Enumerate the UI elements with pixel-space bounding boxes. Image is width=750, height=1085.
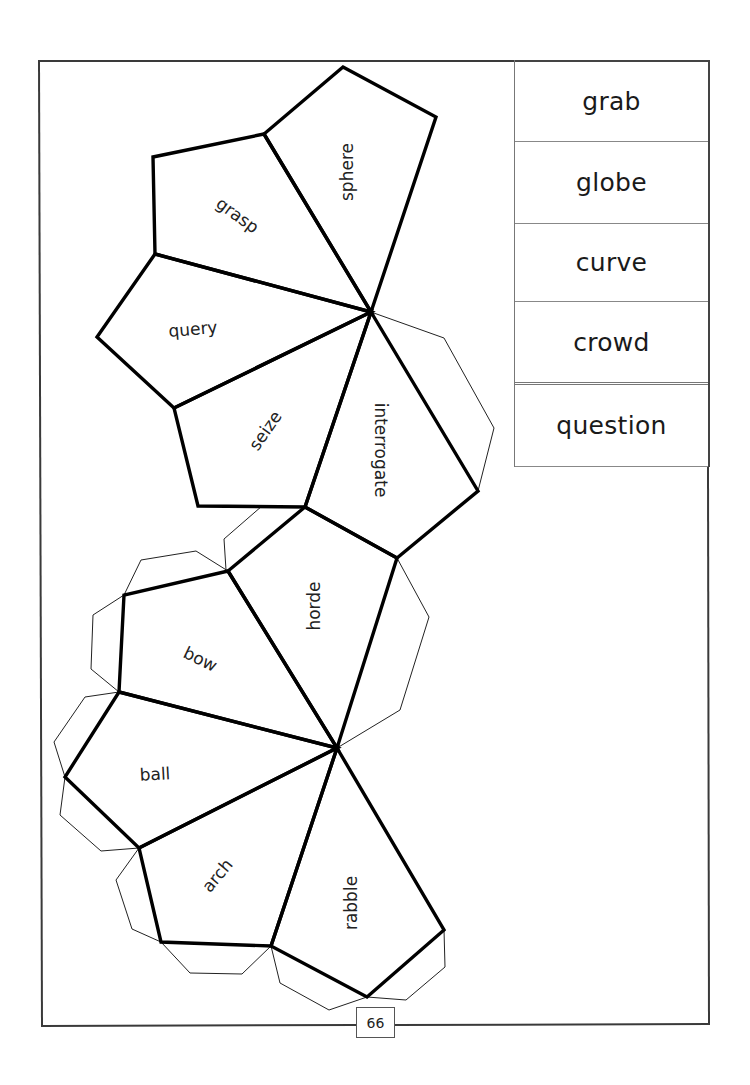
- word-list-item: question: [515, 385, 708, 467]
- word-list-table: grab globe curve crowd question: [514, 60, 710, 467]
- face-label-rabble: rabble: [341, 876, 361, 930]
- tab-rabble-bottom-left: [271, 946, 367, 1010]
- face-label-interrogate: interrogate: [371, 403, 391, 498]
- net-faces: [65, 67, 478, 997]
- word-list-item: curve: [515, 224, 708, 302]
- page-number: 66: [356, 1007, 395, 1038]
- tab-horde-right: [337, 558, 429, 748]
- face-label-arch: arch: [198, 855, 237, 896]
- face-label-query: query: [168, 317, 219, 341]
- face-rabble: [271, 748, 444, 997]
- tab-ball-bottom-left: [60, 777, 139, 851]
- word-list-item: globe: [515, 142, 708, 224]
- frame-right: [708, 467, 709, 1025]
- word-list-item: grab: [515, 60, 708, 142]
- face-label-horde: horde: [304, 581, 324, 630]
- face-label-bow: bow: [180, 642, 220, 675]
- face-label-seize: seize: [245, 407, 286, 454]
- face-label-ball: ball: [139, 763, 171, 785]
- frame-bottom-right: [395, 1024, 709, 1025]
- face-label-sphere: sphere: [337, 143, 357, 201]
- frame-left: [39, 61, 42, 1027]
- word-list-item: crowd: [515, 302, 708, 385]
- face-label-grasp: grasp: [212, 193, 262, 237]
- worksheet-page: sphere grasp query seize interrogate hor…: [0, 0, 750, 1085]
- frame-bottom-left: [42, 1025, 356, 1026]
- tab-arch-left: [116, 848, 161, 942]
